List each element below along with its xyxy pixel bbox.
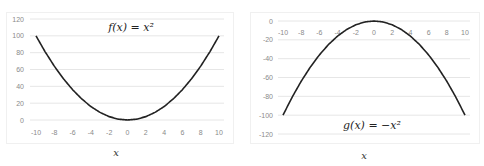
x-tick-label: -8 xyxy=(298,29,304,36)
chart-g-plot: 0-20-40-60-80-100-120-10-8-6-4-20246810g… xyxy=(0,0,484,166)
y-tick-label: -40 xyxy=(263,55,273,62)
x-tick-label: -2 xyxy=(353,29,359,36)
y-tick-label: -80 xyxy=(263,93,273,100)
chart-title: g(x) = −x² xyxy=(343,119,401,132)
x-tick-label: 10 xyxy=(461,29,469,36)
y-tick-label: -20 xyxy=(263,36,273,43)
x-tick-label: 8 xyxy=(445,29,449,36)
y-tick-label: -100 xyxy=(259,112,273,119)
x-tick-label: 6 xyxy=(427,29,431,36)
x-tick-label: -6 xyxy=(316,29,322,36)
x-axis-label: x xyxy=(361,150,367,161)
y-tick-label: 0 xyxy=(269,18,273,25)
x-tick-label: 2 xyxy=(390,29,394,36)
x-tick-label: 0 xyxy=(372,29,376,36)
y-tick-label: -120 xyxy=(259,131,273,138)
y-tick-label: -60 xyxy=(263,74,273,81)
x-tick-label: -10 xyxy=(278,29,288,36)
